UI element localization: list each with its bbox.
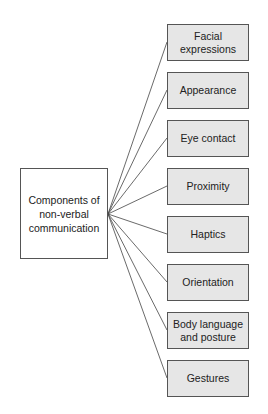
- node-label: Proximity: [186, 180, 229, 193]
- connector-eye-contact: [108, 138, 167, 214]
- node-appearance: Appearance: [167, 72, 249, 109]
- node-eye-contact: Eye contact: [167, 120, 249, 157]
- node-label: Gestures: [187, 372, 230, 385]
- node-label: Orientation: [182, 276, 233, 289]
- root-node: Components of non-verbal communication: [20, 168, 108, 259]
- node-label: Eye contact: [181, 132, 236, 145]
- node-label: Haptics: [190, 228, 225, 241]
- node-label: Body language and posture: [171, 318, 245, 343]
- node-label: Facial expressions: [171, 30, 245, 55]
- node-haptics: Haptics: [167, 216, 249, 253]
- connector-facial-expressions: [108, 42, 167, 214]
- node-label: Appearance: [180, 84, 237, 97]
- node-proximity: Proximity: [167, 168, 249, 205]
- node-facial-expressions: Facial expressions: [167, 24, 249, 61]
- connector-appearance: [108, 90, 167, 214]
- connector-proximity: [108, 186, 167, 214]
- root-node-label: Components of non-verbal communication: [24, 193, 104, 235]
- node-gestures: Gestures: [167, 360, 249, 397]
- node-body-language-and-posture: Body language and posture: [167, 312, 249, 349]
- node-orientation: Orientation: [167, 264, 249, 301]
- connector-gestures: [108, 214, 167, 378]
